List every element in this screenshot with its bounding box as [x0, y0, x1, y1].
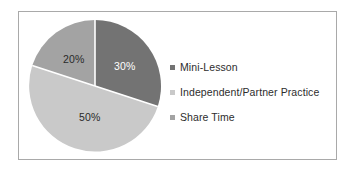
legend-swatch-icon-independent-partner-practice: [170, 90, 175, 95]
legend-label-independent-partner-practice: Independent/Partner Practice: [180, 87, 319, 98]
legend-label-mini-lesson: Mini-Lesson: [180, 62, 238, 73]
legend-item-mini-lesson[interactable]: Mini-Lesson: [170, 55, 328, 80]
pie-chart-svg: [29, 20, 161, 152]
legend-item-share-time[interactable]: Share Time: [170, 105, 328, 130]
pie-label-independent-partner-practice: 50%: [79, 112, 101, 123]
pie-label-mini-lesson: 30%: [114, 61, 136, 72]
pie-label-share-time: 20%: [63, 54, 85, 65]
legend-item-independent-partner-practice[interactable]: Independent/Partner Practice: [170, 80, 328, 105]
chart-legend: Mini-Lesson Independent/Partner Practice…: [170, 55, 328, 130]
legend-swatch-icon-share-time: [170, 115, 175, 120]
pie-chart-plot-area: 30% 50% 20%: [29, 20, 161, 152]
chart-frame: 30% 50% 20% Mini-Lesson Independent/Part…: [18, 11, 337, 160]
legend-swatch-icon-mini-lesson: [170, 65, 175, 70]
legend-label-share-time: Share Time: [180, 112, 235, 123]
